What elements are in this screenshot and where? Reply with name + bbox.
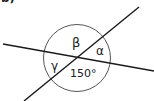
given-angle-label: 150°: [70, 68, 97, 79]
line-diagonal: [24, 7, 139, 101]
alpha-label: α: [96, 45, 104, 57]
beta-label: β: [72, 36, 80, 49]
part-label: b): [1, 0, 15, 4]
intersecting-lines-diagram: [0, 0, 154, 101]
gamma-label: γ: [51, 60, 58, 72]
